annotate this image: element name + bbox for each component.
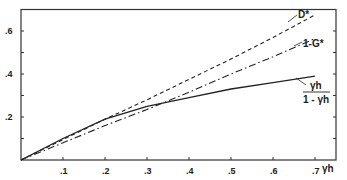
label-one-minus-g: 1-G* [303,38,324,49]
x-tick-label: .6 [270,166,278,176]
series-solid [21,76,315,160]
label-frac-denominator: 1 - γh [303,94,329,105]
leader-d-star [288,15,297,22]
x-tick-label: .5 [228,166,236,176]
x-tick-label: .1 [60,166,68,176]
y-tick-label: .4 [5,69,13,79]
leader-one-minus-g [294,42,302,46]
series-dash-dot [21,39,315,161]
x-tick-label: .4 [186,166,194,176]
y-tick-label: .6 [5,26,13,36]
label-frac-numerator: γh [310,80,322,91]
data-series [21,15,315,160]
x-tick-label: .2 [102,166,110,176]
y-tick-label: .2 [5,112,13,122]
x-tick-label: .7 [312,166,320,176]
x-axis-title: γh [322,163,334,174]
line-chart: .1.2.3.4.5.6.7.2.4.6 D* 1-G* γh 1 - γh γ… [0,0,347,180]
x-tick-label: .3 [144,166,152,176]
leader-frac [296,78,306,85]
label-d-star: D* [298,9,309,20]
curve-labels: D* 1-G* γh 1 - γh γh [288,9,334,174]
